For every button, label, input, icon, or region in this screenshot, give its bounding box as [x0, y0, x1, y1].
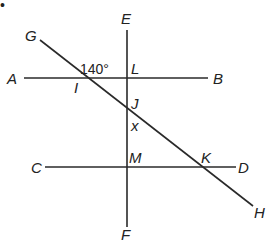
label-i: I — [74, 79, 78, 96]
label-k: K — [201, 149, 212, 166]
label-l: L — [131, 60, 139, 77]
label-a: A — [6, 70, 17, 87]
label-f: F — [121, 226, 131, 243]
label-j: J — [130, 95, 139, 112]
label-m: M — [129, 149, 142, 166]
label-g: G — [25, 27, 37, 44]
label-c: C — [31, 159, 42, 176]
angle-140-label: 140° — [80, 61, 109, 77]
label-b: B — [213, 70, 223, 87]
label-x: x — [130, 117, 139, 134]
label-e: E — [121, 10, 132, 27]
label-h: H — [254, 204, 265, 221]
bullet-mark: • — [0, 0, 5, 13]
geometry-figure: • G E A B 140° L I J x C M K D H F — [0, 0, 271, 246]
label-d: D — [238, 159, 249, 176]
line-gh — [40, 40, 253, 206]
